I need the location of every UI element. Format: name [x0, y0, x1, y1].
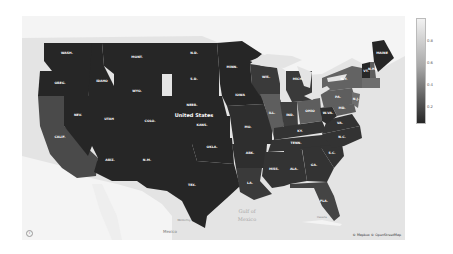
state-label: PA. — [335, 95, 341, 99]
state-CO[interactable] — [127, 108, 172, 138]
map-attribution[interactable]: © Mapbox © OpenStreetMap — [353, 233, 401, 237]
state-MA-CT[interactable] — [362, 78, 380, 88]
state-label: COLO. — [145, 119, 156, 123]
info-button[interactable]: i — [26, 230, 33, 237]
havana-label: Havana — [317, 216, 327, 219]
state-label: CALIF. — [55, 135, 66, 139]
lake-michigan — [280, 71, 286, 100]
state-label: OHIO — [305, 109, 315, 113]
state-label: OREG. — [54, 81, 65, 85]
state-label: ARK. — [246, 151, 255, 155]
state-MO[interactable] — [227, 104, 272, 144]
cuba-land — [302, 220, 342, 226]
state-label: ILL. — [269, 111, 275, 115]
map-canvas[interactable]: WASH.OREG.CALIF.IDAHONEV.MONT.WYO.UTAHAR… — [22, 16, 405, 240]
state-KS[interactable] — [172, 116, 230, 138]
monterrey-label: Monterrey — [177, 219, 191, 222]
state-label: S.D. — [190, 77, 197, 81]
state-ND[interactable] — [172, 43, 219, 68]
state-label: N.M. — [143, 158, 151, 162]
state-label: N.H. — [368, 67, 376, 71]
state-label: TEX. — [188, 183, 196, 187]
state-label: IND. — [286, 113, 294, 117]
state-label: ARIZ. — [105, 158, 115, 162]
state-label: MICH. — [293, 77, 304, 81]
state-label: N.C. — [338, 135, 345, 139]
state-label: TENN. — [291, 141, 302, 145]
state-label: IOWA — [235, 93, 245, 97]
state-label: LA. — [247, 181, 253, 185]
state-label: WYO. — [132, 89, 142, 93]
state-label: VA. — [337, 121, 343, 125]
state-label: UTAH — [104, 117, 114, 121]
color-legend: 0.8 0.6 0.4 0.2 — [416, 18, 446, 126]
legend-tick: 0.2 — [427, 104, 433, 109]
state-label: KY. — [297, 129, 302, 133]
state-label: ALA. — [290, 167, 298, 171]
state-label: WASH. — [61, 51, 73, 55]
state-label: N.Y. — [341, 77, 348, 81]
state-label: NEBR. — [187, 103, 198, 107]
state-label: MISS. — [269, 167, 279, 171]
state-label: S.C. — [328, 151, 335, 155]
legend-tick: 0.4 — [427, 82, 433, 87]
state-label: WIS. — [262, 75, 270, 79]
state-label: KANS. — [196, 123, 207, 127]
state-label: N.D. — [190, 51, 198, 55]
state-label: NEV. — [74, 113, 82, 117]
state-FL[interactable] — [290, 182, 340, 221]
legend-tick: 0.6 — [427, 60, 433, 65]
gulf-label-2: Mexico — [238, 216, 256, 222]
state-label: OKLA. — [207, 145, 218, 149]
state-label: MINN. — [227, 65, 238, 69]
state-label: W.VA. — [323, 111, 333, 115]
state-label: N.J. — [353, 97, 359, 101]
state-SD[interactable] — [172, 68, 219, 96]
state-WA[interactable] — [44, 43, 92, 71]
state-label: IDAHO — [96, 79, 108, 83]
state-label: GA. — [311, 163, 317, 167]
country-label: United States — [175, 112, 214, 118]
mexico-label: Mexico — [163, 229, 178, 234]
state-label: MAINE — [376, 51, 388, 55]
gulf-label-1: Gulf of — [238, 208, 256, 214]
colorbar — [416, 18, 426, 124]
state-AR[interactable] — [232, 144, 267, 168]
state-label: MONT. — [131, 55, 143, 59]
state-label: MO. — [244, 125, 251, 129]
state-label: FLA. — [320, 199, 328, 203]
state-label: MD. — [338, 106, 345, 110]
legend-tick: 0.8 — [427, 38, 433, 43]
